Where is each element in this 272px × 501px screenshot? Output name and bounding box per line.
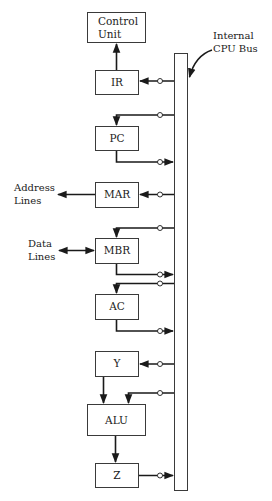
ir-label: IR [111,76,124,88]
address-lines-label-line1: Address [13,182,55,193]
bus-to-pc-wire [117,115,175,125]
bus-label-line2: CPU Bus [213,43,258,54]
pc-in-gate-icon [158,113,163,118]
alu-label: ALU [104,414,128,426]
bus-to-mbr-wire [117,228,175,237]
bus-to-alu-wire [129,393,175,403]
bus-to-ac-wire [117,284,175,294]
z-out-gate-icon [158,473,163,478]
data-lines-label-line1: Data [28,238,52,249]
pc-label: PC [109,132,124,144]
ac-out-gate-icon [158,329,163,334]
address-lines-label-line2: Lines [14,195,41,206]
mbr-to-bus-wire [117,264,174,275]
mar-label: MAR [104,188,131,200]
control-unit-label-line1: Control [98,15,139,27]
bus-label-pointer-arrow [190,50,213,77]
ir-in-gate-icon [158,79,163,84]
mbr-label: MBR [104,244,131,256]
bus-label-line1: Internal [213,30,254,41]
ac-in-gate-icon [158,281,163,286]
y-label: Y [113,357,122,369]
mar-in-gate-icon [158,192,163,197]
pc-to-bus-wire [117,151,174,162]
y-in-gate-icon [158,362,163,367]
cpu-bus-diagram: Internal CPU Bus Control Unit IR PC MAR … [0,0,272,501]
alu-in-gate-icon [158,391,163,396]
ac-label: AC [108,300,125,312]
z-label: Z [113,469,120,481]
pc-out-gate-icon [158,160,163,165]
data-lines-label-line2: Lines [28,251,55,262]
ac-to-bus-wire [117,320,174,331]
internal-cpu-bus [175,54,188,491]
mbr-out-gate-icon [158,272,163,277]
mbr-in-gate-icon [158,226,163,231]
control-unit-label-line2: Unit [98,28,122,40]
